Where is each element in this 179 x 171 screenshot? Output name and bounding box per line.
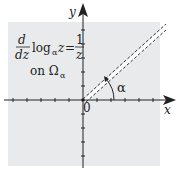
- formula-arg: z: [57, 41, 65, 55]
- formula-equals: =: [65, 41, 75, 55]
- formula-numerator: 1: [76, 33, 84, 47]
- formula-log: log: [32, 41, 51, 55]
- origin-label: 0: [83, 101, 91, 115]
- formula-dz: dz: [15, 48, 30, 62]
- formula-d: d: [18, 33, 26, 47]
- formula-denominator: z: [75, 48, 83, 62]
- x-axis-label: x: [164, 103, 171, 117]
- domain-subscript: α: [60, 71, 66, 80]
- domain-label: on Ω: [30, 64, 59, 78]
- angle-label: α: [117, 80, 126, 95]
- diagram: 0 x y α d dz log α z = 1 z on Ω α: [0, 0, 179, 171]
- y-axis-label: y: [68, 5, 76, 19]
